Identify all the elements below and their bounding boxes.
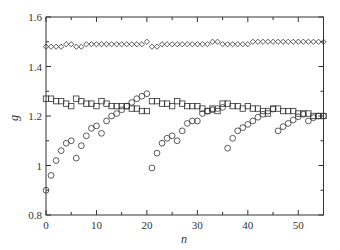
diamond-marker (200, 42, 205, 47)
square-marker (174, 98, 179, 103)
diamond-marker (190, 42, 195, 47)
circle-marker (83, 133, 89, 139)
diamond-marker (124, 42, 129, 47)
square-marker (225, 101, 230, 106)
circle-marker (94, 123, 100, 129)
diamond-marker (255, 39, 260, 44)
diamond-marker (89, 42, 94, 47)
square-marker (63, 101, 68, 106)
diamond-marker (149, 44, 154, 49)
y-axis-label: g (7, 115, 21, 121)
diamond-marker (205, 42, 210, 47)
square-marker (149, 98, 154, 103)
circle-marker (245, 122, 251, 128)
square-marker (154, 98, 159, 103)
square-marker (99, 98, 104, 103)
diamond-marker (59, 44, 64, 49)
square-marker (195, 103, 200, 108)
square-marker (79, 98, 84, 103)
x-tick-label: 10 (91, 219, 103, 231)
square-marker (53, 98, 58, 103)
square-marker (94, 103, 99, 108)
circle-marker (154, 150, 160, 156)
x-tick-label: 30 (192, 219, 204, 231)
square-marker (255, 106, 260, 111)
diamond-marker (265, 39, 270, 44)
diamond-marker (230, 42, 235, 47)
circle-marker (68, 138, 74, 144)
series-diamonds (43, 39, 326, 49)
x-tick-label: 50 (293, 219, 305, 231)
circle-marker (149, 165, 155, 171)
square-marker (159, 101, 164, 106)
diamond-marker (250, 39, 255, 44)
x-tick-label: 0 (43, 219, 49, 231)
circle-marker (78, 143, 84, 149)
axis-ticks (46, 17, 324, 215)
square-marker (139, 108, 144, 113)
circle-marker (159, 140, 165, 146)
y-tick-label: 0.8 (28, 209, 42, 221)
diamond-marker (245, 42, 250, 47)
diamond-marker (74, 44, 79, 49)
circle-marker (58, 148, 64, 154)
diamond-marker (185, 42, 190, 47)
diamond-marker (240, 42, 245, 47)
square-marker (84, 101, 89, 106)
square-marker (235, 103, 240, 108)
series-squares (43, 96, 326, 119)
diamond-marker (306, 39, 311, 44)
circle-marker (48, 173, 54, 179)
diamond-marker (129, 42, 134, 47)
x-tick-label: 40 (242, 219, 254, 231)
plot-frame (46, 17, 324, 215)
square-marker (180, 101, 185, 106)
circle-marker (275, 128, 281, 134)
diamond-marker (301, 39, 306, 44)
circle-marker (129, 99, 135, 105)
square-marker (69, 103, 74, 108)
diamond-marker (48, 44, 53, 49)
square-marker (240, 106, 245, 111)
circle-marker (99, 130, 105, 136)
diamond-marker (215, 39, 220, 44)
diamond-marker (94, 42, 99, 47)
diamond-marker (119, 42, 124, 47)
square-marker (190, 103, 195, 108)
diamond-marker (144, 39, 149, 44)
circle-marker (104, 118, 110, 124)
diamond-marker (104, 42, 109, 47)
diamond-marker (235, 42, 240, 47)
diamond-marker (281, 39, 286, 44)
diamond-marker (134, 42, 139, 47)
plot-border (46, 17, 324, 215)
square-marker (109, 103, 114, 108)
y-tick-label: 1.2 (28, 110, 42, 122)
diamond-marker (260, 39, 265, 44)
circle-marker (73, 155, 79, 161)
square-marker (169, 103, 174, 108)
diamond-marker (109, 42, 114, 47)
diamond-marker (175, 42, 180, 47)
square-marker (291, 108, 296, 113)
diamond-marker (84, 42, 89, 47)
y-tick-label: 1.4 (28, 61, 42, 73)
x-tick-label: 20 (141, 219, 153, 231)
circle-marker (144, 91, 150, 97)
diamond-marker (311, 39, 316, 44)
diamond-marker (99, 42, 104, 47)
circle-marker (179, 128, 185, 134)
y-tick-label: 1 (37, 160, 43, 172)
diamond-marker (139, 42, 144, 47)
diamond-marker (286, 39, 291, 44)
diamond-marker (164, 42, 169, 47)
circle-marker (285, 121, 291, 127)
diamond-marker (159, 42, 164, 47)
diamond-marker (180, 42, 185, 47)
circle-marker (114, 111, 120, 117)
data-series (43, 39, 326, 193)
diamond-marker (291, 39, 296, 44)
square-marker (74, 96, 79, 101)
square-marker (185, 103, 190, 108)
square-marker (48, 96, 53, 101)
